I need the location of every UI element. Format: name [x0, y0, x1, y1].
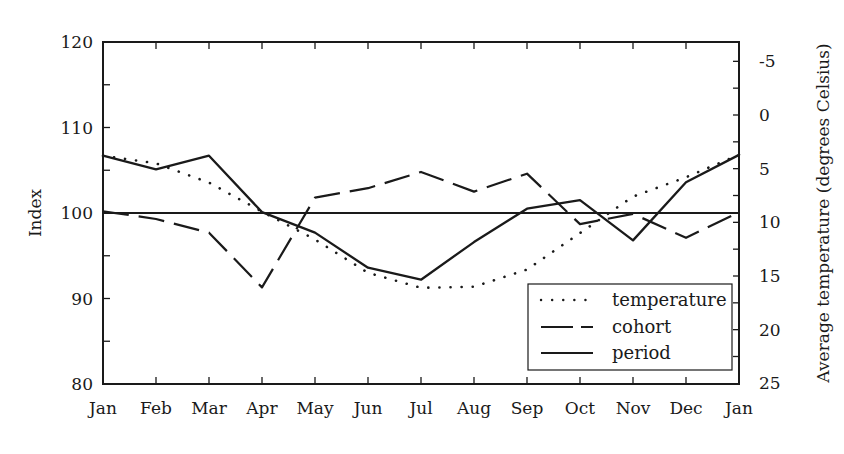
x-tick-label: Nov	[616, 398, 651, 418]
x-tick-label: Sep	[511, 398, 544, 418]
x-tick-label: Oct	[565, 398, 595, 418]
y-tick-label-right: -5	[759, 51, 776, 71]
x-tick-label: Feb	[140, 398, 172, 418]
y-tick-label-left: 120	[61, 32, 93, 52]
x-tick-label: Apr	[245, 398, 278, 418]
x-tick-label: May	[296, 398, 334, 418]
y-tick-label-right: 10	[759, 212, 781, 232]
series-temperature	[103, 155, 739, 288]
y-axis-label-right: Average temperature (degrees Celsius)	[813, 43, 833, 383]
x-tick-label: Jan	[87, 398, 117, 418]
y-tick-label-left: 90	[71, 289, 93, 309]
right-axis-tick-labels: -50510152025	[759, 51, 781, 393]
y-tick-label-left: 80	[71, 374, 93, 394]
x-tick-label: Dec	[669, 398, 702, 418]
x-tick-label: Aug	[456, 398, 491, 418]
y-tick-label-right: 5	[759, 159, 770, 179]
series-lines	[103, 155, 739, 288]
x-tick-label: Jan	[723, 398, 753, 418]
y-tick-label-left: 110	[61, 118, 93, 138]
x-tick-label: Jul	[407, 398, 432, 418]
legend-label-temperature: temperature	[612, 289, 727, 310]
y-tick-label-right: 20	[759, 320, 781, 340]
y-tick-label-right: 15	[759, 266, 781, 286]
left-axis-tick-labels: 8090100110120	[61, 32, 93, 394]
chart: 8090100110120 -50510152025 JanFebMarAprM…	[0, 0, 844, 454]
y-tick-label-right: 25	[759, 373, 781, 393]
legend-label-cohort: cohort	[612, 316, 672, 337]
x-tick-label: Jun	[352, 398, 383, 418]
y-tick-label-left: 100	[61, 203, 93, 223]
series-period	[103, 155, 739, 280]
y-axis-label-left: Index	[25, 188, 45, 237]
legend: temperature cohort period	[528, 284, 732, 370]
legend-label-period: period	[612, 342, 671, 363]
x-tick-label: Mar	[191, 398, 228, 418]
y-tick-label-right: 0	[759, 105, 770, 125]
x-axis-tick-labels: JanFebMarAprMayJunJulAugSepOctNovDecJan	[87, 398, 753, 418]
